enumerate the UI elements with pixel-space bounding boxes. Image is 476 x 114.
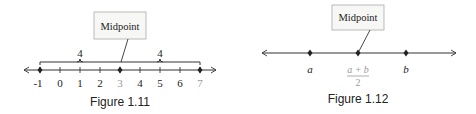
figure-caption: Figure 1.12 — [328, 92, 389, 106]
distance-label-right: 4 — [157, 47, 163, 59]
label-b: b — [403, 63, 409, 75]
callout-text: Midpoint — [100, 21, 139, 32]
figure-1-11: 4 4 Midpoint — [24, 12, 216, 109]
figure-caption: Figure 1.11 — [90, 95, 150, 109]
label-a: a — [307, 63, 313, 75]
fraction-numerator: a + b — [347, 64, 369, 75]
tick-label-midpoint: 3 — [117, 77, 123, 89]
point-b — [404, 50, 409, 57]
figures-canvas: 4 4 Midpoint — [0, 0, 476, 114]
midpoint-callout: Midpoint — [94, 12, 146, 62]
distance-label-left: 4 — [77, 47, 83, 59]
tick-label: 6 — [177, 77, 183, 89]
callout-text: Midpoint — [338, 12, 377, 23]
tick-label: 4 — [137, 77, 143, 89]
point-a — [308, 50, 313, 57]
figure-1-12: Midpoint a a + b 2 b Figure 1.12 — [262, 5, 456, 106]
point-7 — [198, 67, 203, 74]
tick-labels: -1 0 1 2 3 4 5 6 7 — [33, 77, 203, 89]
tick-label: 7 — [197, 77, 203, 89]
point-3 — [118, 67, 123, 74]
tick-label: 2 — [97, 77, 103, 89]
tick-label: 0 — [57, 77, 63, 89]
fraction-denominator: 2 — [356, 77, 361, 88]
distance-brackets: 4 4 — [40, 47, 200, 65]
point-neg1 — [38, 67, 43, 74]
tick-label: 5 — [157, 77, 163, 89]
tick-label: -1 — [33, 77, 42, 89]
label-midpoint-fraction: a + b 2 — [347, 64, 369, 88]
number-line: a a + b 2 b — [262, 50, 456, 89]
number-line: -1 0 1 2 3 4 5 6 7 — [24, 67, 216, 90]
tick-label: 1 — [77, 77, 83, 89]
midpoint-callout: Midpoint — [332, 5, 384, 53]
